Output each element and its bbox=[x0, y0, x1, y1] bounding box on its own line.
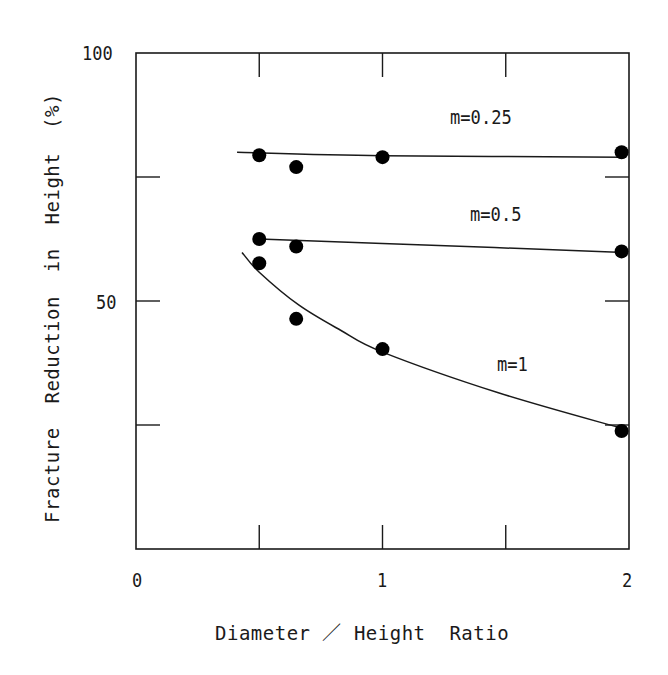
x-tick-label-0: 0 bbox=[132, 570, 142, 590]
data-point-m05 bbox=[252, 232, 266, 246]
data-point-m05 bbox=[615, 244, 629, 258]
series-label-m1: m=1 bbox=[497, 355, 528, 374]
data-point-m025 bbox=[289, 160, 303, 174]
chart: 100 50 0 1 2 m=0.25 m=0.5 m=1 Fracture R… bbox=[0, 0, 668, 675]
data-point-m025 bbox=[252, 148, 266, 162]
y-tick-label-50: 50 bbox=[96, 292, 116, 312]
plot-area bbox=[0, 0, 668, 675]
plot-frame bbox=[136, 53, 629, 549]
fit-curve-m1 bbox=[242, 252, 624, 429]
data-point-m025 bbox=[615, 145, 629, 159]
x-axis-title: Diameter ／ Height Ratio bbox=[215, 624, 509, 643]
x-tick-label-1: 1 bbox=[377, 570, 387, 590]
fit-curve-m05 bbox=[259, 239, 624, 252]
data-point-m05 bbox=[289, 239, 303, 253]
data-point-m025 bbox=[376, 150, 390, 164]
series-label-m05: m=0.5 bbox=[470, 205, 521, 224]
series-label-m025: m=0.25 bbox=[450, 108, 512, 127]
data-point-m1 bbox=[252, 256, 266, 270]
data-point-m1 bbox=[615, 424, 629, 438]
data-point-m1 bbox=[289, 312, 303, 326]
x-tick-label-2: 2 bbox=[622, 570, 632, 590]
fit-curve-m025 bbox=[237, 152, 624, 157]
data-point-m1 bbox=[376, 342, 390, 356]
y-tick-label-100: 100 bbox=[82, 43, 113, 63]
y-axis-title: Fracture Reduction in Height (%) bbox=[43, 93, 62, 523]
